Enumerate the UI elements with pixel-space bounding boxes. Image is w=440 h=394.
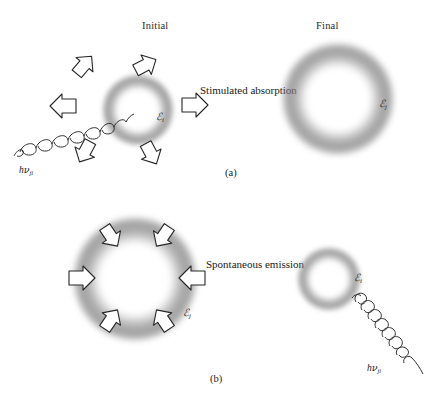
panel-caption-a: (a)	[225, 167, 237, 178]
arrow-inward-icon	[147, 221, 178, 252]
energy-subscript: i	[162, 116, 164, 124]
panel-caption-b: (b)	[210, 373, 222, 384]
process-label-b: Spontaneous emission	[206, 258, 286, 271]
energy-subscript: j	[385, 103, 387, 111]
arrow-inward-icon	[179, 266, 205, 290]
photon-helix-outgoing-b	[330, 292, 440, 392]
arrow-outward-icon	[182, 93, 208, 117]
arrow-inward-icon	[96, 304, 127, 335]
arrow-outward-icon	[136, 138, 166, 169]
arrow-inward-icon	[96, 221, 127, 252]
photon-helix-incoming-a	[12, 100, 137, 162]
energy-subscript: j	[189, 312, 191, 320]
energy-subscript: i	[360, 277, 362, 285]
arrow-inward-icon	[69, 266, 95, 290]
process-label-a: Stimulated absorption	[200, 84, 276, 97]
orbital-final-a	[283, 44, 393, 154]
arrow-group-inward-b	[62, 208, 212, 348]
energy-label-initial-a: ℰi	[156, 111, 164, 124]
photon-label-b: hνji	[367, 362, 381, 374]
arrow-outward-icon	[68, 49, 100, 81]
column-heading-final: Final	[316, 20, 339, 31]
helix-path	[14, 114, 134, 156]
photon-label-a: hνji	[19, 164, 33, 176]
energy-label-final-a: ℰj	[379, 98, 387, 111]
orbital-shell	[283, 44, 393, 154]
energy-label-final-b: ℰi	[354, 272, 362, 285]
arrow-inward-icon	[147, 304, 178, 335]
process-text: Spontaneous emission	[206, 258, 304, 270]
photon-sub: ji	[378, 367, 382, 374]
energy-label-initial-b: ℰj	[183, 307, 191, 320]
photon-sub: ji	[30, 169, 34, 176]
column-heading-initial: Initial	[142, 20, 168, 31]
helix-path	[352, 293, 423, 374]
figure-canvas: Initial Final	[0, 0, 440, 394]
arrow-outward-icon	[130, 50, 161, 80]
